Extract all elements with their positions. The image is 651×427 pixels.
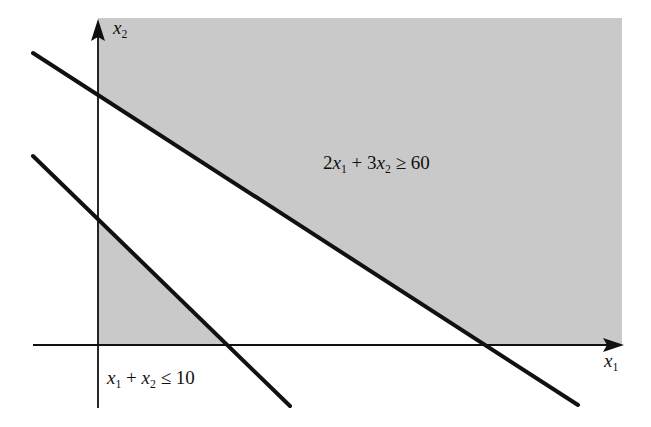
c1-rhs: ≥ 60 (391, 152, 430, 173)
constraint-1-label: 2x1 + 3x2 ≥ 60 (323, 152, 430, 177)
plot-canvas (0, 0, 651, 427)
c2-var-2: x (142, 367, 150, 388)
c1-plus-coef-2: + 3 (347, 152, 377, 173)
x-axis-label-sub: 1 (612, 361, 618, 374)
x-axis-label: x1 (604, 350, 618, 375)
c2-rhs: ≤ 10 (156, 367, 195, 388)
y-axis-label-sub: 2 (121, 28, 127, 41)
y-axis-label: x2 (113, 17, 127, 42)
constraint-2-label: x1 + x2 ≤ 10 (107, 367, 195, 392)
c1-var-2: x (377, 152, 385, 173)
c2-plus: + (121, 367, 141, 388)
c1-var-1: x (333, 152, 341, 173)
c1-coef-1: 2 (323, 152, 333, 173)
